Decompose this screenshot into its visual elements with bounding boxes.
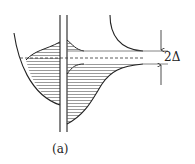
band-diagram (0, 0, 195, 164)
figure-caption: (a) (52, 142, 69, 156)
right-lower-hatched-region (67, 64, 143, 124)
upper-right-curve (110, 15, 143, 51)
gap-label: 2Δ (164, 50, 180, 64)
